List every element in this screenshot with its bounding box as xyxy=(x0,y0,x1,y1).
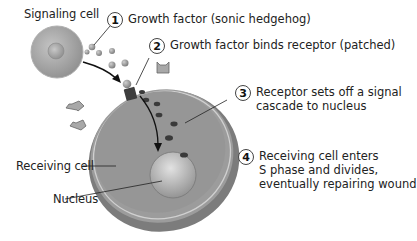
step-2: 2 Growth factor binds receptor (patched) xyxy=(149,38,395,54)
signaling-cell xyxy=(31,26,83,78)
nucleus xyxy=(150,152,196,198)
step-badge: 2 xyxy=(149,38,165,54)
step-4: 4 Receiving cell enters S phase and divi… xyxy=(238,149,417,191)
step-badge: 4 xyxy=(238,149,254,165)
step-1: 1 Growth factor (sonic hedgehog) xyxy=(107,12,311,28)
step-text: Receiving cell enters S phase and divide… xyxy=(259,149,417,191)
receptor-left-1 xyxy=(66,101,84,111)
step-text: Receptor sets off a signal cascade to nu… xyxy=(256,85,402,113)
nucleus-label: Nucleus xyxy=(53,192,98,206)
step-3: 3 Receptor sets off a signal cascade to … xyxy=(235,85,402,113)
nucleus-signal-dot xyxy=(180,152,188,157)
step-text: Growth factor binds receptor (patched) xyxy=(170,38,395,52)
receptor-top xyxy=(157,62,169,73)
signaling-cell-nucleus xyxy=(48,43,64,59)
step-badge: 3 xyxy=(235,85,251,101)
signaling-cell-label: Signaling cell xyxy=(24,7,99,21)
step-text: Growth factor (sonic hedgehog) xyxy=(128,12,311,26)
bound-receptor xyxy=(123,80,138,101)
receiving-cell-label: Receiving cell xyxy=(16,159,94,173)
step-badge: 1 xyxy=(107,12,123,28)
receptor-left-2 xyxy=(70,120,86,130)
